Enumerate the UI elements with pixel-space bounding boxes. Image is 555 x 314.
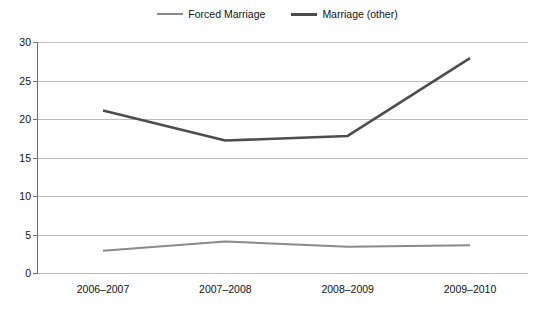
- series-line-marriage-other: [103, 58, 470, 140]
- data-series-layer: [37, 42, 528, 273]
- legend-item-marriage-other[interactable]: Marriage (other): [291, 8, 397, 20]
- x-tick-label: 2009–2010: [444, 283, 497, 295]
- y-tick-label: 15: [0, 152, 31, 163]
- x-axis-tick-labels: 2006–20072007–20082008–20092009–2010: [37, 283, 528, 303]
- x-tick-label: 2007–2008: [199, 283, 252, 295]
- legend-line-swatch-icon: [157, 13, 183, 15]
- y-axis-tick-labels: 051015202530: [0, 42, 31, 273]
- y-tick-label: 30: [0, 37, 31, 48]
- y-tick-label: 0: [0, 268, 31, 279]
- legend-line-swatch-icon: [291, 13, 317, 16]
- y-tick-label: 25: [0, 75, 31, 86]
- plot-area: [37, 42, 528, 273]
- line-chart: Forced Marriage Marriage (other) 0510152…: [0, 0, 555, 314]
- series-line-forced-marriage: [103, 241, 470, 250]
- chart-legend: Forced Marriage Marriage (other): [0, 8, 555, 20]
- legend-label-marriage-other: Marriage (other): [322, 8, 397, 20]
- legend-item-forced-marriage[interactable]: Forced Marriage: [157, 8, 265, 20]
- y-tick-label: 20: [0, 114, 31, 125]
- legend-label-forced-marriage: Forced Marriage: [188, 8, 265, 20]
- x-tick-label: 2006–2007: [77, 283, 130, 295]
- y-tick-label: 5: [0, 229, 31, 240]
- y-tick-label: 10: [0, 191, 31, 202]
- x-tick-label: 2008–2009: [321, 283, 374, 295]
